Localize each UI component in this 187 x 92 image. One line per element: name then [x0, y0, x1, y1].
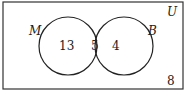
set-b-circle [95, 17, 153, 75]
m-only-count: 13 [59, 39, 74, 53]
intersection-count: 5 [91, 39, 99, 53]
universe-label: U [167, 5, 178, 19]
set-m-label: M [28, 24, 42, 38]
set-b-label: B [147, 24, 157, 38]
outside-count: 8 [167, 74, 175, 88]
venn-diagram: U M B 13 5 4 8 [0, 0, 187, 92]
b-only-count: 4 [112, 39, 120, 53]
